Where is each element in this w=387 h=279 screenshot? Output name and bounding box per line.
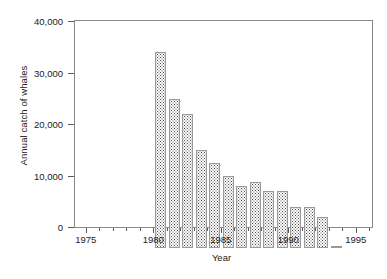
x-tick-label-1990: 1990 bbox=[278, 234, 299, 245]
bar-1983 bbox=[263, 191, 274, 248]
x-tick-minor-1976 bbox=[99, 228, 100, 231]
x-tick-minor-1991 bbox=[302, 228, 303, 231]
y-tick-label-0: 0 bbox=[58, 222, 63, 233]
x-axis-title: Year bbox=[28, 252, 387, 263]
y-tick-label-10000: 10,000 bbox=[34, 170, 63, 181]
plot-area bbox=[74, 20, 373, 228]
x-tick-1995 bbox=[356, 228, 357, 233]
x-tick-minor-1979 bbox=[140, 228, 141, 231]
y-tick-label-40000: 40,000 bbox=[34, 16, 63, 27]
bar-1982 bbox=[250, 182, 261, 248]
x-tick-minor-1986 bbox=[234, 228, 235, 231]
x-tick-1990 bbox=[288, 228, 289, 233]
x-tick-minor-1989 bbox=[275, 228, 276, 231]
x-tick-minor-1993 bbox=[329, 228, 330, 231]
bar-1988 bbox=[331, 246, 342, 248]
y-tick-label-20000: 20,000 bbox=[34, 119, 63, 130]
bar-1986 bbox=[304, 207, 315, 248]
x-tick-minor-1977 bbox=[113, 228, 114, 231]
x-tick-1980 bbox=[153, 228, 154, 233]
x-tick-minor-1992 bbox=[315, 228, 316, 231]
x-tick-minor-1978 bbox=[126, 228, 127, 231]
bar-1976 bbox=[169, 99, 180, 248]
y-tick-30000 bbox=[68, 73, 74, 74]
x-tick-1975 bbox=[86, 228, 87, 233]
x-tick-1985 bbox=[221, 228, 222, 233]
x-tick-label-1980: 1980 bbox=[143, 234, 164, 245]
bar-1981 bbox=[236, 186, 247, 248]
x-tick-minor-1982 bbox=[180, 228, 181, 231]
x-tick-minor-1994 bbox=[342, 228, 343, 231]
x-tick-label-1985: 1985 bbox=[210, 234, 231, 245]
y-tick-40000 bbox=[68, 21, 74, 22]
bars-layer bbox=[150, 42, 387, 248]
x-tick-label-1995: 1995 bbox=[345, 234, 366, 245]
bar-1975 bbox=[155, 52, 166, 248]
y-tick-label-30000: 30,000 bbox=[34, 67, 63, 78]
x-tick-minor-1988 bbox=[261, 228, 262, 231]
y-axis-title: Annual catch of whales bbox=[18, 46, 29, 186]
x-tick-minor-1987 bbox=[248, 228, 249, 231]
y-tick-0 bbox=[68, 227, 74, 228]
bar-1978 bbox=[196, 150, 207, 248]
whale-catch-bar-chart: Annual catch of whales 010,00020,00030,0… bbox=[0, 0, 387, 279]
y-tick-20000 bbox=[68, 124, 74, 125]
bar-1977 bbox=[182, 114, 193, 248]
x-tick-minor-1983 bbox=[194, 228, 195, 231]
y-tick-10000 bbox=[68, 176, 74, 177]
x-tick-minor-1981 bbox=[167, 228, 168, 231]
x-tick-minor-1996 bbox=[369, 228, 370, 231]
x-tick-label-1975: 1975 bbox=[75, 234, 96, 245]
x-tick-minor-1984 bbox=[207, 228, 208, 231]
bar-1987 bbox=[317, 217, 328, 248]
